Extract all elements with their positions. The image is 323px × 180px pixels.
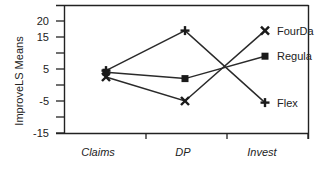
- y-tick-label: 15: [37, 31, 49, 43]
- y-tick-label: -5: [39, 95, 49, 107]
- series-label-regular: Regula: [277, 50, 313, 62]
- square-marker-icon: [182, 75, 189, 82]
- square-marker-icon: [262, 53, 269, 60]
- y-axis-label: ImproveLS Means: [13, 36, 25, 126]
- series-line-fourday: [106, 31, 265, 101]
- x-category-label: Invest: [247, 146, 277, 158]
- y-axis-ticks: 20155-5-15: [33, 15, 64, 139]
- x-category-label: Claims: [81, 146, 115, 158]
- series-lines: [102, 26, 270, 107]
- y-tick-label: -15: [33, 127, 49, 139]
- x-category-label: DP: [175, 146, 191, 158]
- line-chart: 20155-5-15 ClaimsDPInvest ImproveLS Mean…: [0, 0, 323, 180]
- x-axis-ticks: ClaimsDPInvest: [81, 133, 308, 158]
- series-label-fourday: FourDa: [277, 25, 315, 37]
- x-marker-icon: [261, 27, 269, 35]
- y-tick-label: 5: [43, 63, 49, 75]
- plot-frame: [56, 5, 309, 139]
- x-marker-icon: [181, 97, 189, 105]
- series-line-flex: [106, 31, 265, 103]
- series-label-flex: Flex: [277, 97, 298, 109]
- y-tick-label: 20: [37, 15, 49, 27]
